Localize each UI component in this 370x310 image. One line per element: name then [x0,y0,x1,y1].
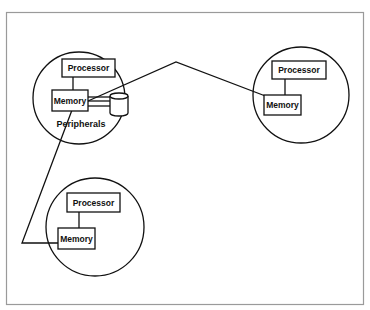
memory-label: Memory [54,96,87,106]
memory-label: Memory [266,100,299,110]
peripherals-label: Peripherals [56,119,105,129]
processor-label: Processor [278,65,320,75]
memory-label: Memory [60,234,93,244]
node-right: Processor Memory [253,47,349,143]
disk-icon [110,93,128,116]
node-bottom-left: Processor Memory [46,178,144,276]
distributed-system-diagram: Processor Memory Peripherals Processor M… [0,0,370,310]
link-top-to-bottom [22,110,72,243]
node-top-left: Processor Memory Peripherals [33,52,128,144]
processor-label: Processor [68,63,110,73]
processor-label: Processor [73,198,115,208]
